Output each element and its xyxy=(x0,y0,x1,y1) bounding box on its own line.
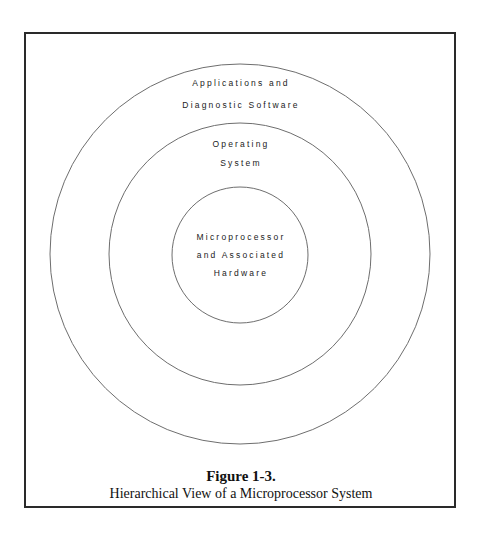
middle-ring-label-line-2: System xyxy=(0,158,482,168)
inner-ring-label-line-3: Hardware xyxy=(0,268,482,278)
middle-ring-label-line-1: Operating xyxy=(0,139,482,149)
figure-title: Figure 1-3. xyxy=(0,468,482,485)
inner-ring-label-line-1: Microprocessor xyxy=(0,232,482,242)
outer-ring-label-line-1: Applications and xyxy=(0,78,482,88)
figure-caption: Hierarchical View of a Microprocessor Sy… xyxy=(0,486,482,502)
outer-ring-label-line-2: Diagnostic Software xyxy=(0,100,482,110)
inner-ring-label-line-2: and Associated xyxy=(0,250,482,260)
